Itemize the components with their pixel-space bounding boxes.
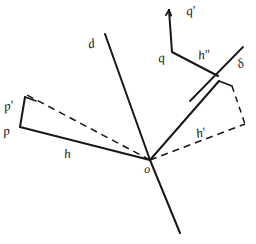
q-path	[169, 10, 218, 76]
label-h: h	[63, 147, 71, 161]
d-axis-lower	[150, 160, 180, 233]
label-origin: o	[143, 163, 150, 176]
label-p: p	[2, 124, 10, 138]
label-h-double: h"	[197, 47, 211, 62]
p-segment	[20, 97, 25, 127]
h-ray	[20, 127, 150, 160]
label-q: q	[157, 51, 165, 65]
h-prime-stub	[219, 81, 232, 86]
diagram-svg	[0, 0, 256, 244]
h-prime-ray	[150, 81, 219, 160]
d-axis-upper	[105, 34, 150, 160]
solid-lines-group	[20, 10, 243, 233]
figure-canvas: dq'qh"δp'phh'o	[0, 0, 256, 244]
h-dashed-upper	[27, 95, 150, 160]
label-q-prime: q'	[185, 3, 196, 17]
delta-dashed	[232, 86, 245, 124]
label-p-prime: p'	[3, 98, 14, 112]
